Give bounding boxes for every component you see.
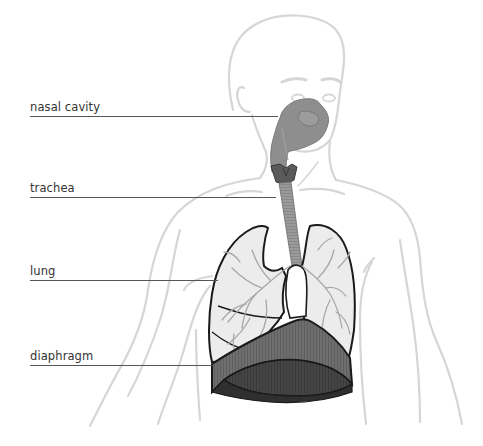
label-nasal-cavity: nasal cavity [30,100,100,114]
label-diaphragm: diaphragm [30,349,93,363]
nasal-cavity [271,99,329,172]
trachea [279,182,302,266]
label-lung: lung [30,264,55,278]
larynx [271,164,297,184]
leader-line-lung [30,280,218,281]
leader-line-nasal-cavity [30,116,278,117]
leader-line-trachea [30,197,276,198]
respiratory-diagram [0,0,483,446]
label-trachea: trachea [30,181,75,195]
leader-line-diaphragm [30,365,214,366]
